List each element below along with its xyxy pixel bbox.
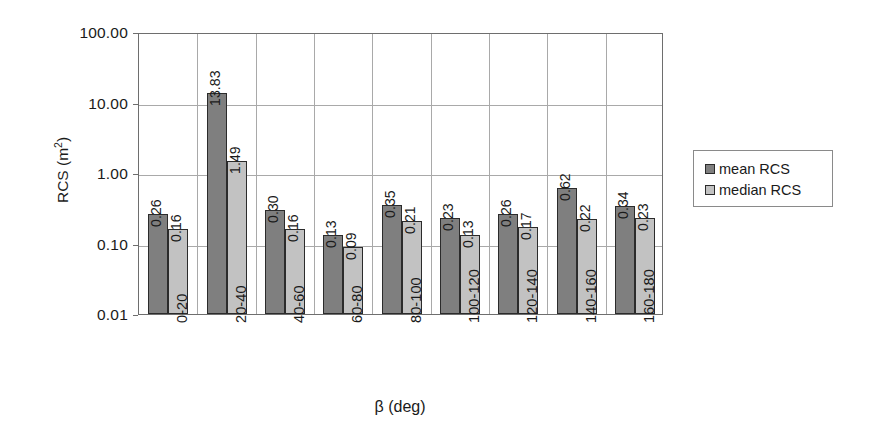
x-axis-tick-label: 60-80 [349,285,365,323]
bar-mean [615,206,635,314]
x-axis-tick-label: 40-60 [291,285,307,323]
bar-value-label: 0.35 [382,190,398,218]
x-axis-tick-label: 160-180 [641,269,657,323]
bar-value-label: 13.83 [207,70,223,106]
bar-mean [498,214,518,314]
bar-value-label: 0.16 [285,214,301,242]
bar-value-label: 0.13 [323,221,339,249]
bar-value-label: 0.09 [343,232,359,260]
bar-value-label: 0.23 [440,203,456,231]
y-axis-tick-label: 100.00 [35,24,128,42]
x-axis-tick-label: 80-100 [408,277,424,323]
x-axis-tick-label: 100-120 [466,269,482,323]
y-axis-title-close: ) [54,137,71,142]
bar-value-label: 0.30 [265,195,281,223]
x-axis-tick-label: 0-20 [174,294,190,323]
x-axis-tick-label: 20-40 [233,285,249,323]
x-axis-tick-label: 120-140 [524,269,540,323]
y-axis-title-exponent: 2 [52,142,64,148]
legend-swatch-icon [705,164,715,174]
bar-value-label: 0.17 [518,213,534,241]
y-axis-title-text: RCS (m [54,148,71,203]
rcs-bar-chart: 100.0010.001.000.100.01 RCS (m2) 0.260.1… [0,0,875,435]
bar-value-label: 1.49 [227,146,243,174]
bar-value-label: 0.22 [577,205,593,233]
x-axis-title: β (deg) [340,398,460,416]
y-axis-tick-label: 1.00 [35,165,128,183]
gridline-vertical [197,34,198,314]
legend-swatch-icon [705,185,715,195]
chart-legend: mean RCSmedian RCS [693,150,833,207]
y-axis-tick-label: 0.01 [35,306,128,324]
gridline-vertical [606,34,607,314]
bar-value-label: 0.34 [615,191,631,219]
bar-mean [207,93,227,314]
legend-item: mean RCS [705,158,832,179]
x-axis-tick-label: 140-160 [583,269,599,323]
y-axis-tick-label: 10.00 [35,95,128,113]
legend-item-label: median RCS [719,182,801,198]
bar-value-label: 0.13 [460,221,476,249]
gridline-vertical [372,34,373,314]
legend-item-label: mean RCS [719,161,790,177]
y-axis-tick-mark [133,315,138,316]
gridline-vertical [431,34,432,314]
gridline-vertical [547,34,548,314]
gridline-vertical [489,34,490,314]
bar-value-label: 0.62 [557,173,573,201]
y-axis-tick-label: 0.10 [35,236,128,254]
bar-mean [557,188,577,314]
bar-value-label: 0.16 [168,214,184,242]
bar-value-label: 0.26 [148,200,164,228]
gridline-vertical [256,34,257,314]
bar-mean [440,218,460,314]
bar-value-label: 0.23 [635,203,651,231]
bar-value-label: 0.26 [498,200,514,228]
gridline-vertical [314,34,315,314]
y-axis-title: RCS (m2) [52,110,72,230]
bar-mean [382,205,402,314]
bar-mean [148,214,168,314]
legend-item: median RCS [705,179,832,200]
bar-mean [265,210,285,314]
bar-value-label: 0.21 [402,206,418,234]
